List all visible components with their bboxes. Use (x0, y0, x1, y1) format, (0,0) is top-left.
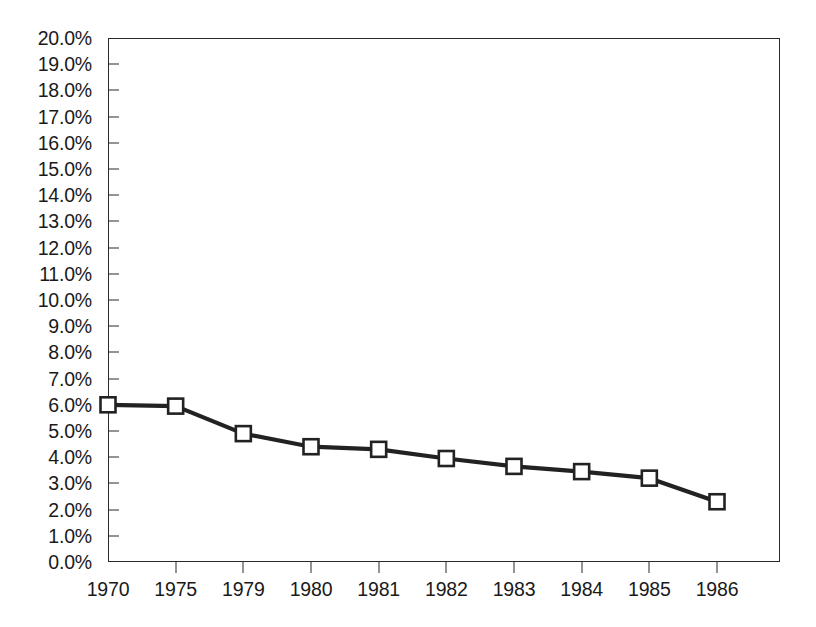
x-axis-tick-mark (649, 562, 650, 573)
y-axis-tick-mark (108, 300, 119, 301)
y-axis-tick-mark (108, 404, 119, 405)
x-axis-tick-mark (446, 562, 447, 573)
y-axis-tick-label: 15.0% (38, 158, 92, 181)
y-axis-tick-mark (108, 326, 119, 327)
x-axis-tick-mark (243, 562, 244, 573)
y-axis-tick-mark (108, 247, 119, 248)
y-axis-tick-label: 8.0% (48, 341, 92, 364)
y-axis-tick-label: 12.0% (38, 236, 92, 259)
x-axis-tick-label: 1970 (87, 578, 130, 601)
y-axis-tick-label: 11.0% (39, 262, 92, 285)
y-axis-tick-label: 5.0% (48, 420, 92, 443)
x-axis-tick-label: 1980 (290, 578, 333, 601)
y-axis-tick-label: 1.0% (48, 524, 92, 547)
y-axis-tick-mark (108, 378, 119, 379)
x-axis-tick-mark (175, 562, 176, 573)
x-axis-tick-label: 1986 (696, 578, 739, 601)
y-axis-tick-mark (108, 535, 119, 536)
y-axis-tick-label: 0.0% (48, 551, 92, 574)
y-axis-tick-label: 7.0% (48, 367, 92, 390)
y-axis-tick-label: 4.0% (48, 446, 92, 469)
line-chart: 0.0%1.0%2.0%3.0%4.0%5.0%6.0%7.0%8.0%9.0%… (0, 0, 816, 627)
y-axis-tick-mark (108, 116, 119, 117)
y-axis-tick-mark (108, 195, 119, 196)
y-axis-tick-mark (108, 64, 119, 65)
y-axis-tick-label: 18.0% (38, 79, 92, 102)
y-axis-tick-mark (108, 169, 119, 170)
x-axis-tick-label: 1984 (560, 578, 603, 601)
y-axis-tick-mark (108, 509, 119, 510)
y-axis-tick-label: 9.0% (48, 315, 92, 338)
x-axis-tick-mark (311, 562, 312, 573)
y-axis-tick-mark (108, 273, 119, 274)
x-axis-tick-label: 1981 (357, 578, 400, 601)
y-axis-tick-mark (108, 431, 119, 432)
x-axis-tick-mark (717, 562, 718, 573)
x-axis-tick-mark (514, 562, 515, 573)
plot-area (108, 38, 780, 562)
y-axis-tick-mark (108, 352, 119, 353)
y-axis-tick-label: 10.0% (38, 289, 92, 312)
y-axis-tick-label: 3.0% (48, 472, 92, 495)
y-axis-tick-label: 14.0% (38, 184, 92, 207)
y-axis-tick-label: 6.0% (48, 393, 92, 416)
y-axis-tick-mark (108, 90, 119, 91)
x-axis-tick-label: 1983 (493, 578, 536, 601)
x-axis-tick-label: 1985 (628, 578, 671, 601)
y-axis: 0.0%1.0%2.0%3.0%4.0%5.0%6.0%7.0%8.0%9.0%… (0, 38, 100, 562)
x-axis-tick-label: 1975 (154, 578, 197, 601)
y-axis-tick-label: 2.0% (48, 498, 92, 521)
y-axis-tick-label: 13.0% (38, 210, 92, 233)
y-axis-tick-label: 17.0% (38, 105, 92, 128)
y-axis-tick-label: 20.0% (38, 27, 92, 50)
y-axis-tick-mark (108, 142, 119, 143)
y-axis-tick-label: 16.0% (38, 131, 92, 154)
y-axis-tick-label: 19.0% (38, 53, 92, 76)
x-axis-tick-label: 1979 (222, 578, 265, 601)
x-axis-tick-mark (581, 562, 582, 573)
y-axis-tick-mark (108, 221, 119, 222)
x-axis-tick-label: 1982 (425, 578, 468, 601)
y-axis-tick-mark (108, 457, 119, 458)
x-axis-tick-mark (378, 562, 379, 573)
y-axis-tick-mark (108, 483, 119, 484)
